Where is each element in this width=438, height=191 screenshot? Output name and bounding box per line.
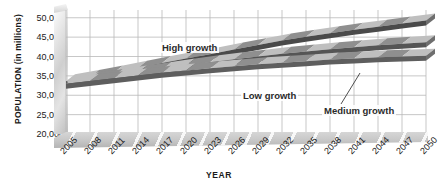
x-axis-title: YEAR <box>0 170 438 180</box>
x-axis-tick-label: 2035 <box>298 135 319 156</box>
x-axis-tick-label: 2047 <box>394 135 415 156</box>
x-axis-tick-label: 2008 <box>82 135 103 156</box>
x-axis-tick-label: 2050 <box>418 135 438 156</box>
population-growth-chart: POPULATION (in millions) 50,00045,00040,… <box>0 0 438 191</box>
x-axis-tick-label: 2032 <box>274 135 295 156</box>
annotation-medium-growth: Medium growth <box>322 105 396 116</box>
x-axis-tick-label: 2020 <box>178 135 199 156</box>
x-axis-tick-label: 2026 <box>226 135 247 156</box>
x-axis-tick-label: 2044 <box>370 135 391 156</box>
x-axis-tick-label: 2011 <box>106 135 127 156</box>
x-axis-tick-label: 2017 <box>154 135 175 156</box>
x-axis-tick-label: 2038 <box>322 135 343 156</box>
x-axis-tick-label: 2005 <box>58 135 79 156</box>
x-axis-tick-label: 2023 <box>202 135 223 156</box>
x-axis-tick-label: 2029 <box>250 135 271 156</box>
annotation-high-growth: High growth <box>160 42 219 53</box>
x-axis-tick-labels: 2005200820112014201720202023202620292032… <box>0 0 438 191</box>
x-axis-tick-label: 2014 <box>130 135 151 156</box>
x-axis-tick-label: 2041 <box>346 135 367 156</box>
annotation-low-growth: Low growth <box>241 90 298 101</box>
